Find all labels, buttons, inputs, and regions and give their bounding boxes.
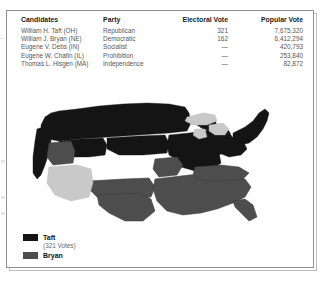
- cell-electoral-vote: —: [163, 60, 238, 68]
- cell-popular-vote: 6,412,294: [238, 35, 303, 43]
- cell-candidate: Eugene V. Debs (IN): [21, 43, 103, 51]
- cell-popular-vote: 420,793: [238, 43, 303, 51]
- cell-electoral-vote: —: [163, 52, 238, 60]
- column-header-popular-vote: Popular Vote: [238, 17, 303, 27]
- page-frame: Candidates Party Electoral Vote Popular …: [6, 10, 314, 268]
- legend-label-taft: Taft: [43, 234, 55, 241]
- election-results-table: Candidates Party Electoral Vote Popular …: [21, 17, 303, 68]
- table-row: Eugene V. Debs (IN) Socialist — 420,793: [21, 43, 303, 51]
- column-header-candidates: Candidates: [21, 17, 103, 27]
- legend-label-bryan: Bryan: [43, 252, 63, 259]
- scan-artifact: [0, 38, 5, 39]
- page-content: Candidates Party Electoral Vote Popular …: [7, 11, 313, 267]
- cell-party: Democratic: [103, 35, 163, 43]
- cell-candidate: William H. Taft (OH): [21, 27, 103, 35]
- cell-candidate: Eugene W. Chafin (IL): [21, 52, 103, 60]
- cell-candidate: William J. Bryan (NE): [21, 35, 103, 43]
- cell-electoral-vote: 162: [163, 35, 238, 43]
- legend-swatch-taft: [23, 234, 38, 241]
- cell-popular-vote: 82,872: [238, 60, 303, 68]
- column-header-electoral-vote: Electoral Vote: [163, 17, 238, 27]
- united-states-map-svg: [19, 83, 299, 223]
- cell-party: Independence: [103, 60, 163, 68]
- cell-party: Prohibition: [103, 52, 163, 60]
- cell-party: Socialist: [103, 43, 163, 51]
- cell-popular-vote: 253,840: [238, 52, 303, 60]
- cell-popular-vote: 7,675,320: [238, 27, 303, 35]
- cell-electoral-vote: —: [163, 43, 238, 51]
- table-row: William H. Taft (OH) Republican 321 7,67…: [21, 27, 303, 35]
- table-header: Candidates Party Electoral Vote Popular …: [21, 17, 303, 27]
- table-row: Thomas L. Hisgen (MA) Independence — 82,…: [21, 60, 303, 68]
- scan-artifact: [1, 160, 5, 163]
- legend-item-bryan: Bryan: [23, 251, 143, 260]
- legend-swatch-bryan: [23, 252, 38, 259]
- legend-item-taft: Taft: [23, 233, 143, 242]
- scan-artifact: [1, 196, 5, 199]
- legend-votes-taft: (321 Votes): [43, 243, 143, 249]
- cell-electoral-vote: 321: [163, 27, 238, 35]
- cell-party: Republican: [103, 27, 163, 35]
- column-header-party: Party: [103, 17, 163, 27]
- table-row: William J. Bryan (NE) Democratic 162 6,4…: [21, 35, 303, 43]
- table-body: William H. Taft (OH) Republican 321 7,67…: [21, 27, 303, 68]
- table-header-row: Candidates Party Electoral Vote Popular …: [21, 17, 303, 27]
- scan-artifact: [1, 212, 5, 215]
- electoral-map: [19, 83, 299, 223]
- table-row: Eugene W. Chafin (IL) Prohibition — 253,…: [21, 52, 303, 60]
- map-legend: Taft (321 Votes) Bryan: [23, 233, 143, 261]
- cell-candidate: Thomas L. Hisgen (MA): [21, 60, 103, 68]
